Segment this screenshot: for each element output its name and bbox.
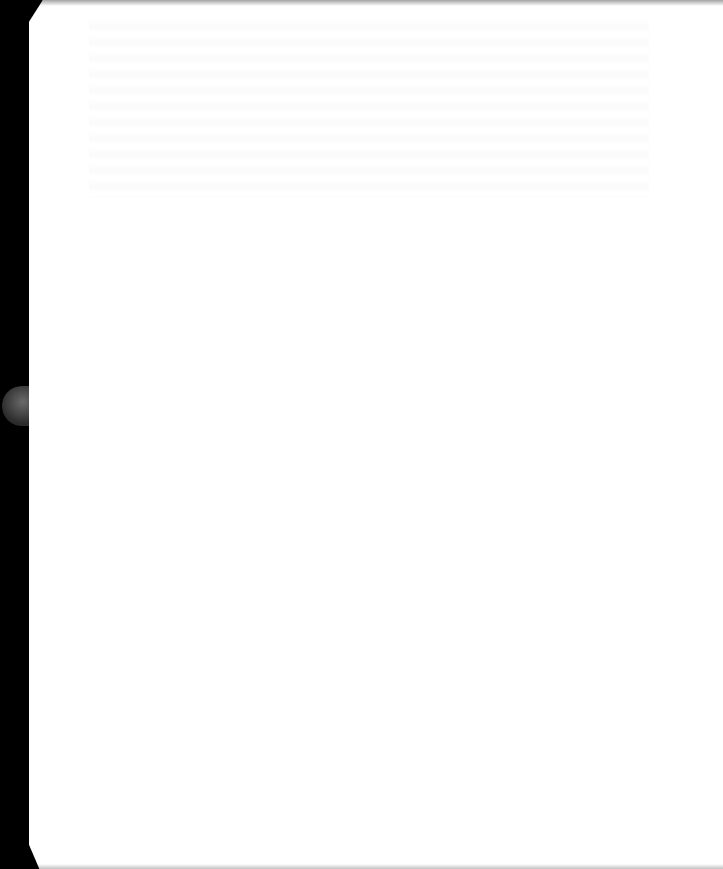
page-text: [29, 0, 30, 1]
blank-page: [29, 0, 723, 869]
page-top-edge-shadow: [29, 0, 723, 6]
page-bottom-edge-shadow: [29, 864, 723, 869]
scan-background: [0, 0, 723, 869]
edge-object: [2, 386, 32, 426]
bleed-through-text-region: [89, 18, 649, 198]
